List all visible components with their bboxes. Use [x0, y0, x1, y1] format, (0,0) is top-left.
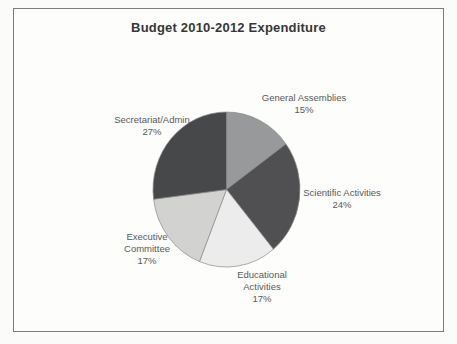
slice-label-educational-activities: EducationalActivities17% [197, 269, 327, 305]
slice-label-scientific-activities: Scientific Activities24% [277, 187, 407, 211]
slice-label-secretariat-admin: Secretariat/Admin27% [87, 114, 217, 138]
slice-label-executive-committee: ExecutiveCommittee17% [82, 231, 212, 267]
slice-label-general-assemblies: General Assemblies15% [239, 92, 369, 116]
